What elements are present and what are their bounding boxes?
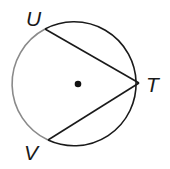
label-t: T [146, 74, 159, 95]
chord-vt [48, 83, 139, 140]
label-u: U [26, 8, 41, 29]
center-point [75, 81, 82, 88]
circle-arc-black [45, 22, 136, 146]
chord-ut [45, 29, 139, 83]
label-v: V [24, 142, 38, 163]
arc-uv [12, 29, 48, 140]
